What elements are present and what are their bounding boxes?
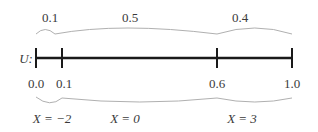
prob-label: 0.1 xyxy=(42,11,58,24)
tick-label: 0.0 xyxy=(28,77,44,90)
top-brace xyxy=(36,28,292,34)
tick-label: 0.1 xyxy=(56,77,72,90)
tick-label: 0.6 xyxy=(209,77,225,90)
axis-label-u: U: xyxy=(19,52,33,65)
outcome-label: X = −2 xyxy=(33,112,72,125)
prob-label: 0.4 xyxy=(232,11,248,24)
bottom-brace xyxy=(36,97,292,103)
tick-label: 1.0 xyxy=(284,77,300,90)
prob-label: 0.5 xyxy=(122,11,138,24)
outcome-label: X = 3 xyxy=(227,112,257,125)
outcome-label: X = 0 xyxy=(110,112,140,125)
